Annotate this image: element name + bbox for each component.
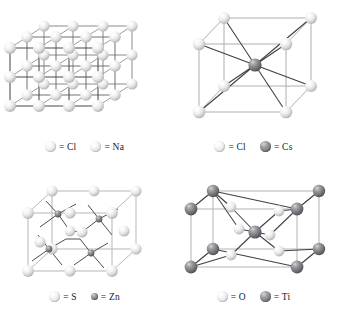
dark-sphere-icon: [91, 293, 98, 300]
legend-item-cl: = Cl: [45, 141, 77, 152]
legend-label-ti: = Ti: [274, 292, 290, 302]
tio2-diagram: [169, 171, 338, 286]
panel-nacl: = Cl = Na: [0, 0, 169, 163]
dark-sphere-icon: [260, 291, 271, 302]
legend-item-na: = Na: [90, 141, 124, 152]
zns-diagram: [0, 171, 169, 286]
panel-zns: = S = Zn: [0, 163, 169, 315]
legend-tio2: = O = Ti: [169, 291, 338, 302]
legend-label-zn: = Zn: [101, 292, 120, 302]
crystal-structure-figure-grid: = Cl = Na: [0, 0, 338, 315]
legend-nacl: = Cl = Na: [0, 141, 169, 152]
legend-item-o: = O: [217, 291, 246, 302]
panel-cscl: = Cl = Cs: [169, 0, 338, 163]
legend-item-cs: = Cs: [260, 141, 293, 152]
light-sphere-icon: [214, 141, 225, 152]
legend-item-ti: = Ti: [260, 291, 290, 302]
light-sphere-icon: [45, 141, 56, 152]
legend-label-cl: = Cl: [228, 142, 246, 152]
zns-s-atoms: [22, 185, 141, 277]
cs-center-atom: [248, 58, 261, 71]
nacl-diagram: [0, 0, 169, 128]
legend-cscl: = Cl = Cs: [169, 141, 338, 152]
light-sphere-icon: [90, 141, 101, 152]
ti-center-atom: [248, 225, 261, 238]
legend-label-cl: = Cl: [59, 142, 77, 152]
light-sphere-icon: [217, 291, 228, 302]
legend-label-cs: = Cs: [274, 142, 293, 152]
cscl-diagram: [169, 0, 338, 128]
legend-label-s: = S: [63, 292, 77, 302]
tio2-ti-atoms: [185, 185, 326, 274]
legend-label-o: = O: [231, 292, 246, 302]
legend-item-s: = S: [49, 291, 77, 302]
legend-item-zn: = Zn: [91, 292, 120, 302]
panel-tio2: = O = Ti: [169, 163, 338, 315]
light-sphere-icon: [49, 291, 60, 302]
legend-item-cl: = Cl: [214, 141, 246, 152]
legend-zns: = S = Zn: [0, 291, 169, 302]
dark-sphere-icon: [260, 141, 271, 152]
legend-label-na: = Na: [104, 142, 124, 152]
